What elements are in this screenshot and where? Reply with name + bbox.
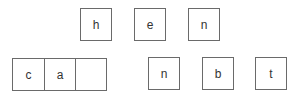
tile-letter: t xyxy=(269,67,272,81)
answer-slot-2[interactable]: a xyxy=(44,59,75,90)
choice-tile-n[interactable]: n xyxy=(148,57,180,90)
slot-letter: a xyxy=(57,68,64,82)
slot-letter: c xyxy=(26,68,32,82)
source-tile-h[interactable]: h xyxy=(80,8,112,41)
source-tile-n[interactable]: n xyxy=(188,8,220,41)
choice-tile-b[interactable]: b xyxy=(202,57,234,90)
tile-letter: b xyxy=(215,67,222,81)
answer-slot-3-empty[interactable] xyxy=(75,59,106,90)
answer-slot-1[interactable]: c xyxy=(13,59,44,90)
answer-slots: c a xyxy=(12,58,107,91)
choice-tile-t[interactable]: t xyxy=(255,57,287,90)
tile-letter: n xyxy=(161,67,168,81)
tile-letter: n xyxy=(201,18,208,32)
tile-letter: h xyxy=(93,18,100,32)
tile-letter: e xyxy=(147,18,154,32)
source-tile-e[interactable]: e xyxy=(134,8,166,41)
